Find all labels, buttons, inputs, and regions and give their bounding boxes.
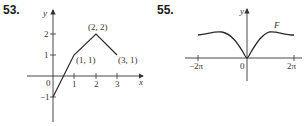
y-axis-label: y [42, 8, 47, 18]
y-tick-2: 2 [44, 29, 49, 39]
graph-53: y x 0 1 2 3 2 1 −1 (1, 1) (2, 2) (3, 1) [27, 8, 143, 122]
x-tick-1: 1 [72, 79, 77, 89]
curve-F [198, 32, 294, 58]
origin-label: 0 [46, 78, 51, 88]
x-tick-2: 2 [94, 79, 99, 89]
piecewise-line [53, 34, 117, 97]
graph-55: y 0 −2π 2π F [185, 6, 302, 81]
x-tick-2pi: 2π [287, 61, 297, 71]
x-tick-3: 3 [115, 79, 120, 89]
point-label-2-2: (2, 2) [88, 22, 108, 32]
x-tick-neg2pi: −2π [189, 61, 204, 71]
x-axis-label: x [138, 77, 143, 87]
origin-label: 0 [240, 61, 245, 71]
y-axis-label: y [239, 6, 244, 16]
point-label-1-1: (1, 1) [76, 55, 96, 65]
y-tick-neg1: −1 [40, 92, 50, 102]
point-label-3-1: (3, 1) [118, 55, 138, 65]
y-tick-1: 1 [44, 50, 49, 60]
curve-label-F: F [273, 20, 280, 30]
charts-canvas: y x 0 1 2 3 2 1 −1 (1, 1) (2, 2) (3, 1) … [0, 0, 306, 126]
